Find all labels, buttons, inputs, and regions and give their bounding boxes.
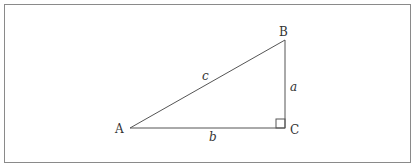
vertex-label-a: A (114, 122, 124, 136)
right-triangle-diagram: B A C c a b (0, 0, 413, 167)
vertex-label-b: B (279, 25, 288, 39)
side-label-b: b (209, 130, 217, 144)
side-label-c: c (202, 69, 209, 83)
right-angle-marker (276, 119, 285, 128)
vertex-label-c: C (290, 123, 299, 137)
triangle (130, 40, 285, 128)
side-label-a: a (290, 80, 297, 94)
